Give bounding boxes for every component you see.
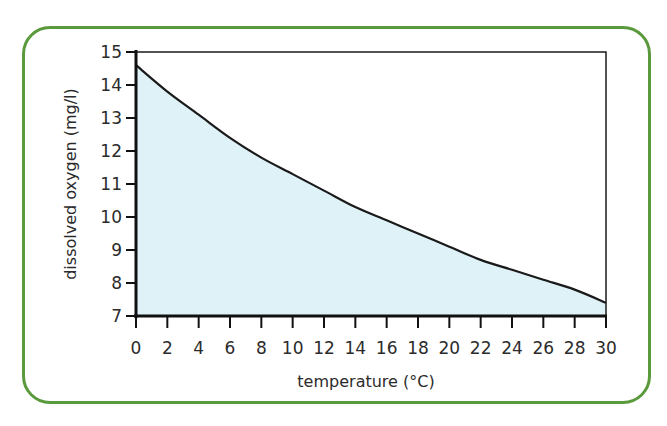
x-tick-label: 20: [439, 338, 461, 358]
y-tick-label: 7: [111, 306, 122, 326]
x-tick-label: 24: [501, 338, 523, 358]
x-tick-label: 30: [595, 338, 617, 358]
y-axis-label: dissolved oxygen (mg/l): [61, 88, 80, 280]
x-tick-label: 6: [225, 338, 236, 358]
x-tick-label: 16: [376, 338, 398, 358]
y-axis-ticks: 789101112131415: [100, 42, 136, 326]
x-tick-label: 18: [407, 338, 429, 358]
x-tick-label: 10: [282, 338, 304, 358]
x-axis-label: temperature (°C): [297, 372, 434, 391]
y-tick-label: 13: [100, 108, 122, 128]
x-tick-label: 8: [256, 338, 267, 358]
y-tick-label: 9: [111, 240, 122, 260]
x-tick-label: 28: [564, 338, 586, 358]
x-tick-label: 26: [533, 338, 555, 358]
x-tick-label: 2: [162, 338, 173, 358]
y-tick-label: 11: [100, 174, 122, 194]
y-tick-label: 12: [100, 141, 122, 161]
x-tick-label: 14: [345, 338, 367, 358]
y-tick-label: 14: [100, 75, 122, 95]
x-tick-label: 0: [131, 338, 142, 358]
y-tick-label: 8: [111, 273, 122, 293]
x-tick-label: 22: [470, 338, 492, 358]
x-tick-label: 12: [313, 338, 335, 358]
x-axis-ticks: 024681012141618202224262830: [131, 316, 617, 358]
area-under-curve: [136, 65, 606, 316]
y-tick-label: 10: [100, 207, 122, 227]
area-fill: [136, 65, 606, 316]
dissolved-oxygen-chart: 789101112131415 024681012141618202224262…: [0, 0, 667, 426]
y-tick-label: 15: [100, 42, 122, 62]
x-tick-label: 4: [193, 338, 204, 358]
